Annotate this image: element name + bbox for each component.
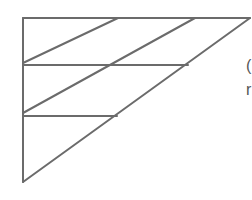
diagonal-line-1 (23, 18, 118, 63)
hypotenuse (23, 18, 250, 182)
clipped-char-1: ( (246, 58, 251, 74)
clipped-char-2: r (246, 82, 251, 98)
triangle-diagram (0, 0, 252, 200)
